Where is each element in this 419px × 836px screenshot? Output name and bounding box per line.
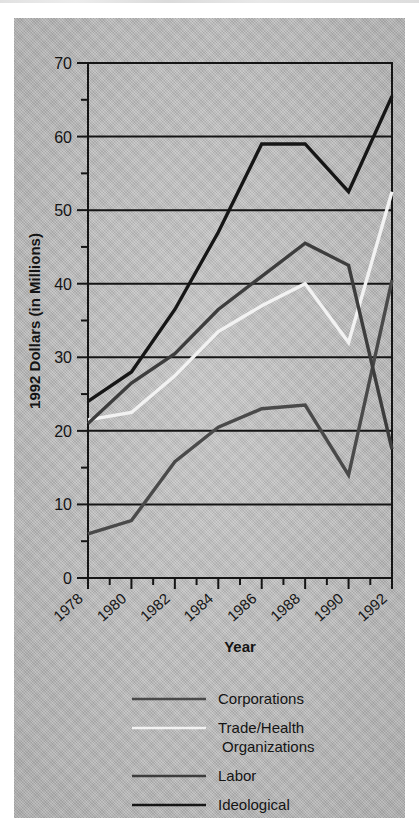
x-tick-label: 1980 (93, 590, 129, 625)
scanned-figure-panel: 010203040506070 197819801982198419861988… (14, 18, 405, 818)
y-axis: 010203040506070 (54, 55, 392, 587)
x-tick-label: 1986 (224, 590, 260, 625)
legend-label: Trade/Health (218, 719, 304, 736)
x-tick-label: 1992 (354, 590, 390, 625)
y-tick-label: 0 (63, 570, 72, 587)
legend-label-line2: Organizations (222, 738, 315, 755)
y-tick-label: 40 (54, 276, 72, 293)
x-tick-label: 1988 (267, 590, 303, 625)
y-tick-label: 50 (54, 202, 72, 219)
scan-top-edge (0, 0, 419, 14)
chart-legend: CorporationsTrade/HealthOrganizationsLab… (132, 690, 315, 818)
y-tick-label: 20 (54, 423, 72, 440)
y-tick-label: 70 (54, 55, 72, 72)
series-line (88, 192, 392, 420)
x-tick-label: 1990 (310, 590, 346, 625)
legend-label: Labor (218, 767, 256, 784)
x-tick-label: 1978 (50, 590, 86, 625)
legend-label-line2: Organizations (222, 815, 315, 818)
legend-label: Ideological (218, 796, 290, 813)
screenshot-root: 010203040506070 197819801982198419861988… (0, 0, 419, 836)
y-tick-label: 10 (54, 496, 72, 513)
x-tick-label: 1984 (180, 590, 216, 625)
legend-label: Corporations (218, 690, 304, 707)
x-tick-label: 1982 (137, 590, 173, 625)
x-axis: 19781980198219841986198819901992 (50, 578, 392, 625)
line-chart: 010203040506070 197819801982198419861988… (14, 18, 405, 818)
series-line (88, 96, 392, 401)
y-tick-label: 60 (54, 129, 72, 146)
y-tick-label: 30 (54, 349, 72, 366)
x-axis-title: Year (224, 638, 256, 655)
data-series-layer (88, 96, 392, 534)
y-axis-title: 1992 Dollars (in Millions) (26, 233, 43, 409)
